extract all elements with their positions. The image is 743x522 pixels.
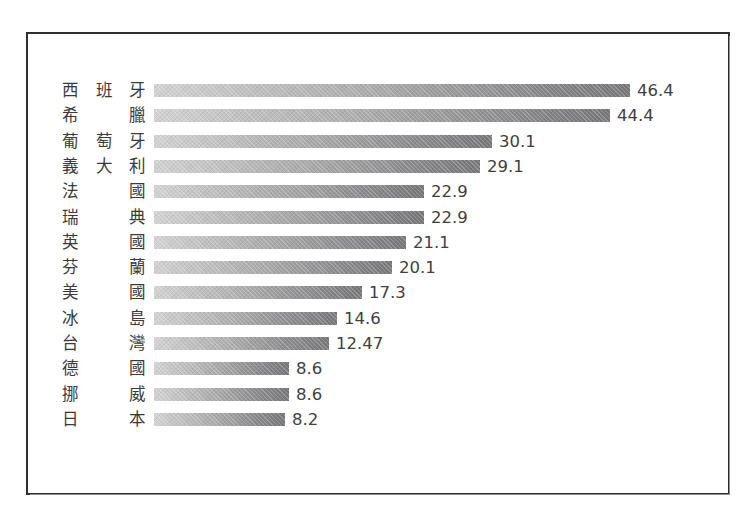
bar xyxy=(154,84,630,97)
category-label: 英國 xyxy=(62,230,146,255)
bar-value-label: 17.3 xyxy=(369,280,406,305)
bar-row: 瑞典22.9 xyxy=(28,205,732,230)
category-label: 台灣 xyxy=(62,331,146,356)
bar xyxy=(154,337,329,350)
bar-value-label: 46.4 xyxy=(637,78,674,103)
bar-fill xyxy=(154,135,492,148)
bar-fill xyxy=(154,261,392,274)
category-label: 冰島 xyxy=(62,306,146,331)
bar-fill xyxy=(154,185,424,198)
bar xyxy=(154,413,285,426)
category-label: 日本 xyxy=(62,407,146,432)
bar-fill xyxy=(154,337,329,350)
category-label: 挪威 xyxy=(62,382,146,407)
bar-row: 日本8.2 xyxy=(28,407,732,432)
bar-fill xyxy=(154,362,289,375)
bar-fill xyxy=(154,388,289,401)
bar xyxy=(154,185,424,198)
category-label: 義大利 xyxy=(62,154,146,179)
bar-fill xyxy=(154,236,406,249)
bar-row: 義大利29.1 xyxy=(28,154,732,179)
bar-row: 德國8.6 xyxy=(28,356,732,381)
bar xyxy=(154,135,492,148)
bar-row: 英國21.1 xyxy=(28,230,732,255)
bar xyxy=(154,388,289,401)
bar-value-label: 8.6 xyxy=(296,356,322,381)
bar-value-label: 30.1 xyxy=(499,129,536,154)
bar-value-label: 8.6 xyxy=(296,382,322,407)
bar-fill xyxy=(154,211,424,224)
category-label: 希臘 xyxy=(62,103,146,128)
bar-value-label: 14.6 xyxy=(344,306,381,331)
bar xyxy=(154,236,406,249)
bar-row: 美國17.3 xyxy=(28,280,732,305)
category-label: 德國 xyxy=(62,356,146,381)
bar-value-label: 22.9 xyxy=(431,205,468,230)
bar-row: 葡萄牙30.1 xyxy=(28,129,732,154)
category-label: 法國 xyxy=(62,179,146,204)
bar-value-label: 29.1 xyxy=(487,154,524,179)
bar-value-label: 22.9 xyxy=(431,179,468,204)
bar-row: 芬蘭20.1 xyxy=(28,255,732,280)
bar-row: 西班牙46.4 xyxy=(28,78,732,103)
bar-fill xyxy=(154,413,285,426)
bar-fill xyxy=(154,160,480,173)
chart-frame-border: 西班牙46.4希臘44.4葡萄牙30.1義大利29.1法國22.9瑞典22.9英… xyxy=(26,32,730,495)
category-label: 芬蘭 xyxy=(62,255,146,280)
bar-value-label: 12.47 xyxy=(336,331,383,356)
bar-fill xyxy=(154,109,610,122)
bar-fill xyxy=(154,312,337,325)
bar-value-label: 8.2 xyxy=(292,407,318,432)
bar xyxy=(154,312,337,325)
category-label: 西班牙 xyxy=(62,78,146,103)
bar xyxy=(154,362,289,375)
bar-row: 冰島14.6 xyxy=(28,306,732,331)
bar-fill xyxy=(154,286,362,299)
bar xyxy=(154,261,392,274)
category-label: 瑞典 xyxy=(62,205,146,230)
bar-row: 希臘44.4 xyxy=(28,103,732,128)
bar xyxy=(154,160,480,173)
chart-page: 西班牙46.4希臘44.4葡萄牙30.1義大利29.1法國22.9瑞典22.9英… xyxy=(0,0,743,522)
bar xyxy=(154,286,362,299)
bar-fill xyxy=(154,84,630,97)
bar-chart-plot-area: 西班牙46.4希臘44.4葡萄牙30.1義大利29.1法國22.9瑞典22.9英… xyxy=(28,34,732,497)
bar-value-label: 21.1 xyxy=(413,230,450,255)
category-label: 葡萄牙 xyxy=(62,129,146,154)
bar-row: 挪威8.6 xyxy=(28,382,732,407)
bar-row: 台灣12.47 xyxy=(28,331,732,356)
bar xyxy=(154,109,610,122)
bar-row: 法國22.9 xyxy=(28,179,732,204)
bar xyxy=(154,211,424,224)
category-label: 美國 xyxy=(62,280,146,305)
bar-value-label: 20.1 xyxy=(399,255,436,280)
bar-value-label: 44.4 xyxy=(617,103,654,128)
